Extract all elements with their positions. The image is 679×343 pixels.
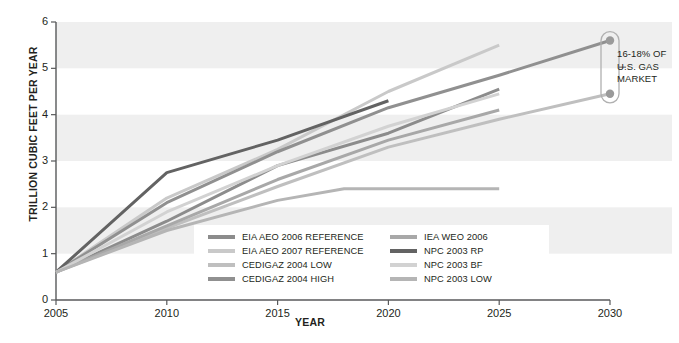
chart-container: TRILLION CUBIC FEET PER YEAR YEAR 012345… [0, 0, 679, 343]
x-tick-label: 2025 [476, 307, 522, 319]
legend-swatch-icon [390, 249, 417, 253]
x-tick-label: 2030 [587, 307, 633, 319]
annotation-line: 16-18% OF [617, 48, 679, 61]
legend-item[interactable]: IEA WEO 2006 [390, 230, 492, 244]
legend-item-label: EIA AEO 2007 REFERENCE [242, 246, 364, 256]
chart-footnote [30, 334, 670, 343]
legend-item-label: CEDIGAZ 2004 HIGH [242, 274, 334, 284]
legend-item[interactable]: EIA AEO 2006 REFERENCE [208, 230, 364, 244]
legend-item-label: EIA AEO 2006 REFERENCE [242, 232, 364, 242]
chart-annotation: 16-18% OFU.S. GASMARKET [617, 48, 679, 86]
legend-item[interactable]: CEDIGAZ 2004 LOW [208, 258, 364, 272]
legend-swatch-icon [208, 277, 235, 281]
legend-item[interactable]: CEDIGAZ 2004 HIGH [208, 272, 364, 286]
chart-legend: EIA AEO 2006 REFERENCEEIA AEO 2007 REFER… [194, 225, 549, 291]
legend-item[interactable]: NPC 2003 LOW [390, 272, 492, 286]
legend-column-right: IEA WEO 2006NPC 2003 RPNPC 2003 BFNPC 20… [390, 230, 492, 286]
legend-item-label: IEA WEO 2006 [424, 232, 488, 242]
y-tick-label: 4 [26, 108, 48, 120]
legend-item[interactable]: NPC 2003 BF [390, 258, 492, 272]
legend-swatch-icon [208, 235, 235, 239]
y-tick-label: 0 [26, 293, 48, 305]
legend-item[interactable]: EIA AEO 2007 REFERENCE [208, 244, 364, 258]
legend-item[interactable]: NPC 2003 RP [390, 244, 492, 258]
legend-item-label: NPC 2003 BF [424, 260, 482, 270]
legend-swatch-icon [208, 249, 235, 253]
y-tick-label: 3 [26, 154, 48, 166]
x-tick-label: 2020 [365, 307, 411, 319]
annotation-line: MARKET [617, 73, 679, 86]
y-tick-label: 1 [26, 247, 48, 259]
legend-item-label: NPC 2003 RP [424, 246, 484, 256]
x-tick-label: 2010 [144, 307, 190, 319]
chart-plot-area [0, 0, 679, 343]
y-tick-label: 6 [26, 15, 48, 27]
legend-item-label: CEDIGAZ 2004 LOW [242, 260, 332, 270]
annotation-line: U.S. GAS [617, 61, 679, 74]
y-tick-label: 5 [26, 61, 48, 73]
legend-item-label: NPC 2003 LOW [424, 274, 492, 284]
x-tick-label: 2005 [33, 307, 79, 319]
legend-swatch-icon [208, 263, 235, 267]
legend-swatch-icon [390, 263, 417, 267]
legend-column-left: EIA AEO 2006 REFERENCEEIA AEO 2007 REFER… [208, 230, 364, 286]
legend-swatch-icon [390, 277, 417, 281]
y-tick-label: 2 [26, 200, 48, 212]
legend-swatch-icon [390, 235, 417, 239]
x-tick-label: 2015 [255, 307, 301, 319]
